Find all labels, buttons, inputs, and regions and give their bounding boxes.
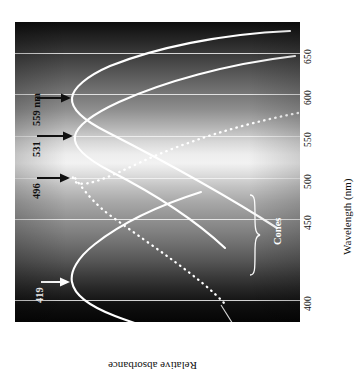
cones-bracket	[250, 195, 260, 275]
tick-500: 500	[303, 174, 313, 189]
arrow-559	[37, 94, 71, 103]
tick-550: 550	[303, 132, 313, 147]
x-axis-title: Wavelength (nm)	[341, 179, 353, 255]
arrow-496	[37, 174, 70, 183]
rod-label: Rod	[245, 326, 256, 345]
tick-400: 400	[303, 296, 313, 311]
arrow-531	[37, 132, 73, 141]
peak-label-419: 419	[34, 287, 45, 303]
tick-650: 650	[303, 49, 313, 64]
arrow-419	[41, 278, 70, 287]
plot-area: 559 nm 531 496 419	[15, 22, 300, 322]
peak-label-496: 496	[31, 183, 42, 199]
curve-s-cone-419	[72, 192, 201, 322]
rod-leader-line	[221, 305, 243, 322]
tick-450: 450	[303, 215, 313, 230]
cones-label: Cones	[272, 218, 283, 245]
peak-label-559: 559 nm	[31, 93, 42, 126]
curve-rod-496	[73, 113, 298, 304]
y-axis-title: Relative absorbance	[108, 360, 197, 372]
peak-label-531: 531	[31, 141, 42, 157]
tick-600: 600	[303, 90, 313, 105]
absorbance-curves	[15, 22, 300, 322]
absorbance-spectrum-figure: 559 nm 531 496 419 Cones Rod 650 600 550…	[0, 0, 363, 387]
